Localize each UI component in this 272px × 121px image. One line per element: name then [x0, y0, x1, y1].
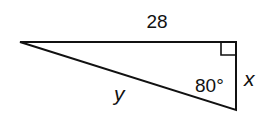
triangle-diagram: 28 x y 80° [0, 0, 272, 121]
angle-label: 80° [195, 75, 224, 96]
right-side-label: x [243, 67, 256, 90]
hypotenuse-label: y [112, 82, 126, 105]
top-side-label: 28 [146, 11, 167, 32]
right-angle-marker [221, 42, 236, 55]
